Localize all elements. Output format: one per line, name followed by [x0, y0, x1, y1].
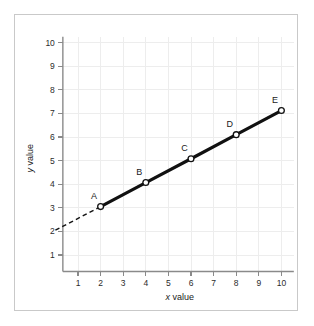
data-point-label: B	[136, 167, 142, 177]
x-tick-label: 10	[277, 278, 287, 288]
y-axis-tick-labels: 12345678910	[45, 38, 55, 260]
data-point-marker	[188, 156, 194, 162]
y-tick-label: 5	[50, 156, 55, 166]
data-point-marker	[98, 204, 104, 210]
x-tick-label: 5	[166, 278, 171, 288]
data-point-label: A	[91, 191, 97, 201]
y-tick-label: 1	[50, 250, 55, 260]
x-tick-label: 8	[234, 278, 239, 288]
x-tick-label: 7	[211, 278, 216, 288]
x-tick-label: 1	[76, 278, 81, 288]
y-tick-label: 8	[50, 85, 55, 95]
data-point-label: C	[181, 143, 188, 153]
y-tick-label: 4	[50, 179, 55, 189]
x-axis-word: value	[170, 292, 194, 302]
x-axis-tick-labels: 12345678910	[76, 278, 287, 288]
data-point-marker	[279, 108, 285, 114]
y-tick-label: 7	[50, 108, 55, 118]
figure-canvas: 12345678910 12345678910 ABCDE x value y …	[0, 0, 314, 326]
x-tick-label: 9	[256, 278, 261, 288]
data-point-label: D	[226, 119, 233, 129]
y-tick-label: 6	[50, 132, 55, 142]
y-axis-title: y value	[25, 144, 35, 174]
y-tick-label: 2	[50, 226, 55, 236]
y-tick-label: 10	[45, 38, 55, 48]
chart-plot-area: 12345678910 12345678910 ABCDE x value y …	[0, 0, 314, 326]
gridlines-vertical	[78, 37, 281, 272]
x-tick-label: 2	[98, 278, 103, 288]
y-axis-word: value	[25, 144, 35, 168]
y-tick-label: 9	[50, 61, 55, 71]
x-axis-title: x value	[164, 292, 194, 302]
x-tick-label: 6	[189, 278, 194, 288]
x-tick-label: 4	[143, 278, 148, 288]
data-point-label: E	[272, 95, 278, 105]
data-point-marker	[143, 180, 149, 186]
data-point-labels: ABCDE	[91, 95, 278, 201]
data-point-marker	[233, 132, 239, 138]
y-tick-label: 3	[50, 203, 55, 213]
x-tick-label: 3	[121, 278, 126, 288]
